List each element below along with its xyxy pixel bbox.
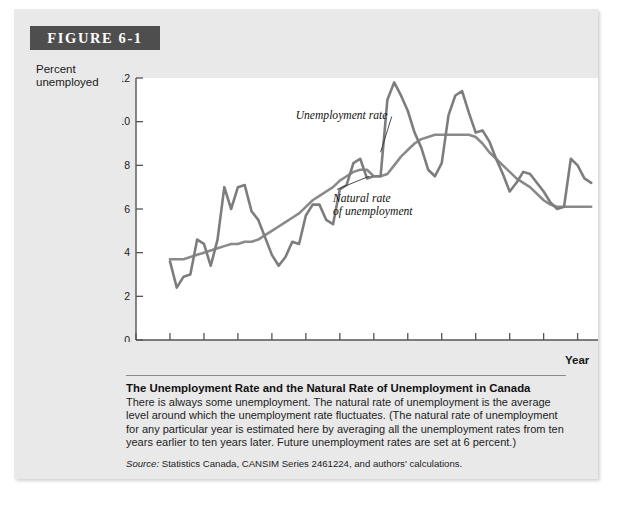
figure-caption: The Unemployment Rate and the Natural Ra…: [126, 375, 566, 469]
caption-source-word: Source:: [126, 458, 159, 469]
y-tick-label: 0: [124, 334, 130, 342]
caption-source: Source: Statistics Canada, CANSIM Series…: [126, 458, 566, 469]
x-axis-title: Year: [565, 354, 589, 366]
y-tick-label: 10: [122, 115, 130, 127]
caption-source-text: Statistics Canada, CANSIM Series 2461224…: [159, 458, 462, 469]
y-tick-label: 4: [124, 246, 130, 258]
figure-number-label: FIGURE 6-1: [47, 30, 142, 47]
caption-body: There is always some unemployment. The n…: [126, 396, 566, 449]
y-axis-title-line1: Percent: [36, 63, 108, 76]
y-axis-title: Percent unemployed: [36, 63, 108, 89]
annotation-label: Natural rate: [332, 192, 391, 205]
y-tick-label: 2: [124, 290, 130, 302]
caption-title: The Unemployment Rate and the Natural Ra…: [126, 382, 566, 394]
caption-divider: [126, 375, 566, 376]
annotation-label-line2: of unemployment: [333, 205, 413, 218]
y-tick-label: 8: [124, 159, 130, 171]
figure-number-banner: FIGURE 6-1: [30, 26, 160, 50]
y-tick-label: 6: [124, 203, 130, 215]
y-tick-label: 12: [122, 72, 130, 84]
annotation-label: Unemployment rate: [296, 109, 388, 122]
line-chart-svg: 024681012 194519501955196019651970197519…: [122, 72, 598, 342]
chart-plot-area: 024681012 194519501955196019651970197519…: [122, 72, 598, 342]
y-axis-title-line2: unemployed: [36, 76, 108, 89]
figure-card: FIGURE 6-1 Percent unemployed Year 02468…: [14, 9, 598, 479]
